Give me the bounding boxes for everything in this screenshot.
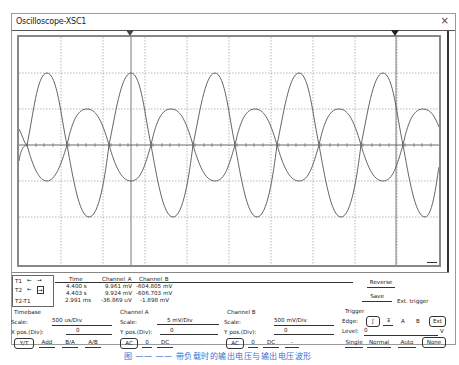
oscilloscope-screen — [17, 35, 441, 267]
readout-t2-b: -606.703 mV — [136, 290, 172, 296]
save-button[interactable]: Save — [362, 292, 392, 302]
readout-separator — [55, 282, 353, 283]
channel-b-ypos-input[interactable]: 0 — [274, 326, 334, 335]
readout-t2-a: 9.924 mV — [105, 290, 132, 296]
edge-falling-button[interactable]: Ⳣ — [383, 316, 393, 326]
timebase-scale-input[interactable]: 500 us/Div — [52, 316, 112, 326]
channel-a-scale-label: Scale: — [120, 319, 137, 325]
trigger-source-a[interactable]: A — [401, 318, 405, 324]
timebase-xpos-input[interactable]: 0 — [66, 326, 112, 335]
readout-diff-time: 2.991 ms — [65, 297, 91, 303]
readout-t2-time: 4.403 s — [66, 290, 87, 296]
trigger-edge-label: Edge: — [342, 318, 358, 324]
channel-b-ypos-label: Y pos.(Div): — [224, 329, 256, 335]
mode-ab-button[interactable]: A/B — [85, 338, 101, 348]
close-icon[interactable]: × — [441, 15, 449, 26]
t1-label: T1 — [15, 278, 22, 284]
readout-diff-b: -1.898 mV — [140, 297, 169, 303]
channel-a-ypos-label: Y pos.(Div): — [120, 329, 152, 335]
mode-yt-button[interactable]: Y/T — [14, 338, 34, 349]
t2-label: T2 — [15, 287, 22, 293]
channel-b-title: Channel B — [227, 309, 256, 315]
channel-b-scale-label: Scale: — [224, 319, 241, 325]
t1-left-arrow-icon[interactable]: ← — [27, 277, 32, 283]
ext-trigger-label: Ext. trigger — [397, 298, 428, 304]
channel-a-scale-input[interactable]: 5 mV/Div — [157, 316, 219, 325]
channel-a-zero-button[interactable]: 0 — [142, 338, 152, 348]
channel-b-dc-button[interactable]: DC — [263, 338, 279, 348]
channel-b-invert-button[interactable]: - — [285, 338, 299, 348]
trigger-level-unit: V — [440, 328, 444, 334]
readout-t1-b: -604.805 mV — [136, 283, 172, 289]
channel-b-ac-button[interactable]: AC — [226, 338, 244, 349]
trigger-none-button[interactable]: None — [422, 337, 446, 348]
window-title: Oscilloscope-XSC1 — [16, 17, 86, 26]
readout-diff-a: -36.869 uV — [101, 297, 132, 303]
title-bar: Oscilloscope-XSC1 × — [12, 14, 455, 31]
readout-table: Time Channel_A Channel_B 4.400 s 9.961 m… — [55, 275, 355, 305]
trigger-level-input[interactable]: 0 — [364, 326, 438, 336]
cursor-t2-handle-icon[interactable] — [391, 30, 401, 37]
divider — [12, 272, 449, 273]
channel-a-title: Channel A — [120, 309, 149, 315]
cursor-controls: T1 ← → T2 ← → T2-T1 — [12, 275, 54, 307]
t1-right-arrow-icon[interactable]: → — [37, 277, 42, 283]
channel-b-zero-button[interactable]: 0 — [248, 338, 258, 348]
t2-t1-label: T2-T1 — [15, 298, 30, 304]
trigger-title: Trigger — [345, 308, 364, 314]
readout-t1-a: 9.961 mV — [105, 283, 132, 289]
channel-a-ypos-input[interactable]: 0 — [160, 326, 218, 335]
channel-b-scale-input[interactable]: 500 mV/Div — [274, 316, 334, 326]
trigger-source-b[interactable]: B — [416, 318, 420, 324]
timebase-title: Timebase — [14, 309, 41, 315]
readout-t1-time: 4.400 s — [66, 283, 87, 289]
trigger-level-label: Level: — [342, 328, 359, 334]
trigger-auto-button[interactable]: Auto — [398, 338, 416, 348]
trigger-normal-button[interactable]: Normal — [367, 338, 391, 348]
oscilloscope-window: Oscilloscope-XSC1 × — [11, 13, 456, 345]
trigger-single-button[interactable]: Single — [345, 338, 363, 348]
channel-a-dc-button[interactable]: DC — [157, 338, 173, 348]
reverse-button[interactable]: Reverse — [367, 278, 395, 288]
figure-caption: 图 —— —— 带负载时的输出电压与输出电压波形 — [124, 350, 312, 361]
collapse-handle[interactable] — [427, 262, 437, 263]
timebase-xpos-label: X pos.(Div): — [11, 329, 44, 335]
channel-a-ac-button[interactable]: AC — [120, 338, 138, 349]
mode-add-button[interactable]: Add — [39, 338, 55, 348]
mode-ba-button[interactable]: B/A — [62, 338, 78, 348]
t2-left-arrow-icon[interactable]: ← — [27, 286, 32, 292]
t2-right-arrow-icon[interactable]: → — [37, 286, 44, 294]
timebase-scale-label: Scale: — [11, 319, 28, 325]
cursor-t1-handle-icon[interactable] — [126, 30, 136, 37]
waveform-plot — [19, 37, 439, 265]
